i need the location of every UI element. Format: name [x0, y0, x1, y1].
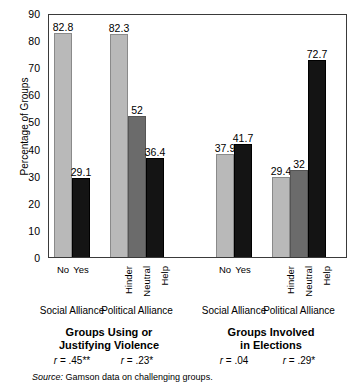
bar: 72.7 — [308, 60, 326, 257]
bar-value-label: 82.8 — [53, 21, 73, 34]
x-axis-group-label: Social Alliance — [202, 305, 266, 316]
x-axis-category-label: Hinder — [285, 266, 296, 294]
correlation-stat: r = .45** — [54, 355, 90, 366]
plot-area: 82.829.182.35236.437.941.729.43272.7 — [48, 14, 347, 258]
bar-value-label: 36.4 — [145, 146, 165, 159]
y-axis-tick-label: 60 — [6, 91, 40, 99]
source-note: Source: Gamson data on challenging group… — [32, 372, 213, 382]
y-axis-tick-label: 90 — [6, 10, 40, 18]
bar: 52 — [128, 116, 146, 257]
y-axis-tick-label: 40 — [6, 146, 40, 154]
y-axis-tick-label: 0 — [6, 254, 40, 262]
y-axis-tick-label: 20 — [6, 200, 40, 208]
x-axis-group-label: Political Alliance — [101, 305, 173, 316]
panel-title-line-1: Groups Involved — [228, 326, 315, 339]
bar: 29.4 — [272, 177, 290, 257]
bar-value-label: 29.1 — [71, 166, 91, 179]
bar: 29.1 — [72, 178, 90, 257]
bar-value-label: 82.3 — [109, 22, 129, 35]
bar: 82.8 — [54, 33, 72, 257]
source-prefix: Source: — [32, 372, 63, 382]
bar: 41.7 — [234, 144, 252, 257]
x-axis-group-label: Social Alliance — [40, 305, 104, 316]
bar-value-label: 52 — [131, 104, 143, 117]
bar: 36.4 — [146, 158, 164, 257]
panel-title-line-2: in Elections — [228, 339, 315, 352]
correlation-stat: r = .29* — [283, 355, 316, 366]
x-axis-category-label: Neutral — [303, 266, 314, 297]
y-axis-tick-label: 70 — [6, 64, 40, 72]
panel-title-line-2: Justifying Violence — [59, 339, 159, 352]
source-text: Gamson data on challenging groups. — [63, 372, 213, 382]
y-axis-tick-label: 80 — [6, 37, 40, 45]
panel-title: Groups Involvedin Elections — [228, 326, 315, 351]
bar: 37.9 — [216, 154, 234, 257]
x-axis-category-label: Neutral — [141, 266, 152, 297]
x-axis-category-label: Yes — [73, 264, 89, 275]
correlation-stat: r = .04 — [220, 355, 249, 366]
y-axis-tick-label: 10 — [6, 227, 40, 235]
x-axis-category-label: Yes — [235, 264, 251, 275]
x-axis-category-label: Help — [321, 266, 332, 286]
y-axis-tick-label: 30 — [6, 173, 40, 181]
panel-title: Groups Using orJustifying Violence — [59, 326, 159, 351]
bar-value-label: 32 — [293, 158, 305, 171]
correlation-stat: r = .23* — [121, 355, 154, 366]
x-axis-category-label: Hinder — [123, 266, 134, 294]
bar-chart-figure: Percentage of Groups 0102030405060708090… — [0, 0, 353, 390]
y-axis-tick-label: 50 — [6, 118, 40, 126]
bar: 32 — [290, 170, 308, 257]
x-axis-group-label: Political Alliance — [263, 305, 335, 316]
x-axis-category-label: No — [219, 264, 231, 275]
x-axis-category-label: Help — [159, 266, 170, 286]
bar: 82.3 — [110, 34, 128, 257]
x-axis-category-label: No — [57, 264, 69, 275]
bar-value-label: 72.7 — [307, 48, 327, 61]
panel-title-line-1: Groups Using or — [59, 326, 159, 339]
bar-value-label: 41.7 — [233, 132, 253, 145]
bar-value-label: 29.4 — [271, 165, 291, 178]
